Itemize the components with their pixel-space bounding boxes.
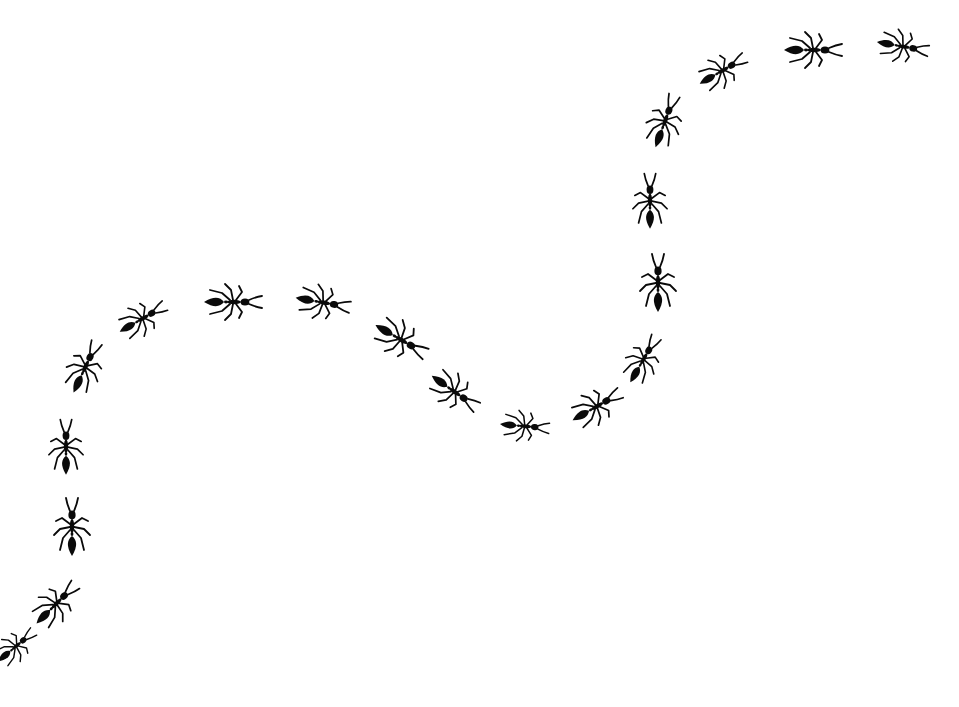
ant-14	[618, 246, 698, 326]
ant-15	[612, 166, 688, 242]
ant-trail-illustration: Black silhouette ants walking in a wavy …	[0, 0, 959, 707]
ant-7	[190, 262, 270, 342]
ant-19	[858, 4, 941, 87]
ant-8	[276, 258, 364, 346]
ant-icon	[28, 412, 104, 488]
ant-icon	[612, 166, 688, 242]
ant-18	[770, 10, 850, 90]
ant-icon	[190, 262, 270, 342]
ant-4	[28, 412, 104, 488]
ant-icon	[770, 10, 850, 90]
ant-icon	[858, 4, 941, 87]
ant-icon	[32, 490, 112, 570]
ant-3	[32, 490, 112, 570]
ant-icon	[618, 246, 698, 326]
ant-icon	[276, 258, 364, 346]
